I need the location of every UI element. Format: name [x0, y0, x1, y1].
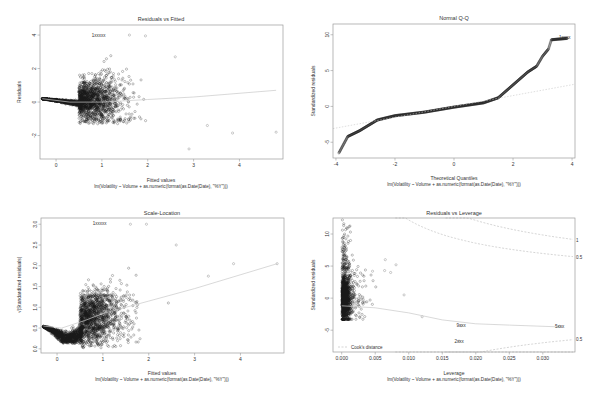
y-axis: -2024: [31, 33, 40, 137]
panel-title: Scale-Location: [144, 210, 180, 216]
y-axis-label: √|Standardized residuals|: [16, 257, 22, 313]
y-tick-label: 5: [324, 69, 330, 72]
x-axis-label: Fitted values: [147, 177, 176, 183]
plot-frame: [40, 25, 283, 159]
x-tick-label: 0.025: [503, 355, 516, 361]
x-tick-label: 4: [239, 356, 242, 362]
y-tick-label: -2: [31, 133, 37, 138]
x-axis-label: Theoretical Quantiles: [430, 175, 478, 181]
y-tick-label: 1.5: [32, 283, 38, 290]
y-axis-label: Standardized residuals: [310, 65, 316, 116]
y-tick-label: 1.0: [32, 304, 38, 311]
y-tick-label: 0: [324, 297, 330, 300]
y-axis: 0.00.51.01.52.02.53.0: [32, 221, 41, 353]
y-axis-label: Residuals: [16, 81, 22, 103]
observation-label: 9xxx: [456, 323, 466, 328]
y-tick-label: 2.5: [32, 241, 38, 248]
y-tick-label: 5: [324, 264, 330, 267]
x-tick-label: 0.010: [402, 355, 415, 361]
legend-label: Cook's distance: [351, 345, 383, 350]
y-tick-label: 10: [324, 231, 330, 237]
x-axis-label: Leverage: [444, 370, 465, 376]
x-tick-label: 2: [146, 162, 149, 168]
y-tick-label: 4: [31, 33, 37, 36]
legend: Cook's distance: [338, 345, 383, 350]
x-tick-label: 0.000: [335, 355, 348, 361]
x-tick-label: 0: [56, 356, 59, 362]
residuals-vs-leverage-panel: Residuals vs Leverage Leverage lm(Volati…: [310, 210, 583, 382]
y-tick-label: -5: [324, 328, 330, 333]
model-formula: lm(Volatility ~ Volume + as.numeric(form…: [95, 377, 229, 382]
panel-title: Residuals vs Fitted: [138, 16, 184, 22]
y-tick-label: 0.0: [32, 345, 38, 352]
cooks-distance-contour: [395, 340, 573, 352]
cooks-distance-contour: [446, 218, 573, 239]
y-tick-label: 0: [324, 105, 330, 108]
smoother-line: [342, 306, 563, 327]
x-tick-label: 0.005: [369, 355, 382, 361]
data-points: [41, 34, 277, 150]
residuals-vs-fitted-panel: Residuals vs Fitted Fitted values lm(Vol…: [16, 16, 283, 189]
x-tick-label: 0: [453, 161, 456, 167]
model-formula: lm(Volatility ~ Volume + as.numeric(form…: [387, 377, 521, 382]
data-points: [338, 37, 569, 154]
observation-label: 1xxxx: [559, 35, 571, 40]
y-axis: -50510: [324, 32, 333, 145]
y-tick-label: 3.0: [32, 221, 38, 228]
x-tick-label: 0.020: [470, 355, 483, 361]
x-tick-label: 3: [192, 162, 195, 168]
x-axis: -4-2024: [334, 158, 574, 167]
scale-location-panel: Scale-Location Fitted values lm(Volatili…: [16, 210, 284, 382]
regression-diagnostics-figure: Residuals vs Fitted Fitted values lm(Vol…: [0, 0, 596, 399]
x-tick-label: 3: [193, 356, 196, 362]
y-tick-label: -5: [324, 140, 330, 145]
qq-reference-line: [333, 84, 575, 128]
panel-title: Residuals vs Leverage: [426, 210, 482, 216]
x-tick-label: 2: [512, 161, 515, 167]
x-tick-label: -4: [334, 161, 339, 167]
contour-label: 0.5: [576, 255, 583, 260]
normal-qq-panel: Normal Q-Q Theoretical Quantiles lm(Vola…: [310, 15, 575, 187]
data-points: [42, 223, 278, 349]
y-tick-label: 0.5: [32, 324, 38, 331]
smoother-line: [43, 264, 277, 328]
y-tick-label: 2.0: [32, 262, 38, 269]
contour-label: 1: [576, 238, 579, 243]
panel-title: Normal Q-Q: [439, 15, 469, 21]
y-tick-label: 2: [31, 67, 37, 70]
observation-label: 1xxxxx: [93, 221, 108, 226]
x-axis-label: Fitted values: [148, 370, 177, 376]
x-tick-label: 0.030: [537, 355, 550, 361]
observation-label: 5xxx: [555, 324, 565, 329]
x-axis: 01234: [56, 353, 242, 362]
x-tick-label: 0.015: [436, 355, 449, 361]
contour-label: 0.5: [576, 337, 583, 342]
x-axis: 0.0000.0050.0100.0150.0200.0250.030: [335, 352, 549, 361]
x-tick-label: 2: [147, 356, 150, 362]
observation-label: 1xxxxx: [92, 33, 107, 38]
cooks-distance-contour: [395, 218, 573, 257]
model-formula: lm(Volatility ~ Volume + as.numeric(form…: [94, 184, 228, 189]
plot-frame: [333, 24, 575, 158]
x-tick-label: -2: [393, 161, 398, 167]
x-tick-label: 1: [101, 162, 104, 168]
y-tick-label: 10: [324, 32, 330, 38]
x-tick-label: 4: [238, 162, 241, 168]
plot-frame: [333, 218, 575, 352]
x-tick-label: 0: [55, 162, 58, 168]
x-tick-label: 1: [102, 356, 105, 362]
model-formula: lm(Volatility ~ Volume + as.numeric(form…: [387, 182, 521, 187]
y-tick-label: 0: [31, 100, 37, 103]
y-axis: -50510: [324, 231, 333, 332]
x-axis: 01234: [55, 159, 241, 168]
x-tick-label: 4: [571, 161, 574, 167]
y-axis-label: Standardized residuals: [310, 259, 316, 310]
observation-label: 2xxx: [454, 339, 464, 344]
